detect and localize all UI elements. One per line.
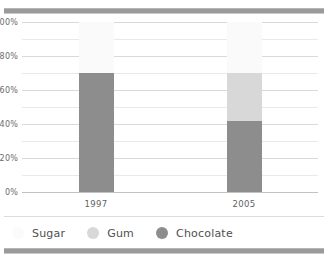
gridline <box>22 158 318 159</box>
gridline <box>22 22 318 23</box>
bottom-divider-band <box>4 248 324 254</box>
legend-label: Sugar <box>32 227 65 240</box>
gridline <box>22 73 318 74</box>
bar-segment-sugar <box>227 22 262 73</box>
y-axis-tick-label: 0% <box>5 188 18 197</box>
x-axis-category-label: 2005 <box>232 199 255 209</box>
y-axis-tick-label: 100% <box>0 18 18 27</box>
gridline <box>22 107 318 108</box>
x-axis-category-label: 1997 <box>84 199 107 209</box>
gridline <box>22 124 318 125</box>
y-axis-tick-label: 40% <box>0 120 18 129</box>
gridline <box>22 175 318 176</box>
legend-label: Chocolate <box>176 227 233 240</box>
legend-swatch-circle-icon <box>87 227 99 239</box>
y-axis-tick-label: 80% <box>0 52 18 61</box>
bar-segment-gum <box>227 73 262 121</box>
bar-segment-chocolate <box>79 73 114 192</box>
gridline <box>22 39 318 40</box>
bar-segment-chocolate <box>227 121 262 192</box>
gridline <box>22 56 318 57</box>
legend-item-chocolate[interactable]: Chocolate <box>156 227 233 240</box>
y-axis-tick-label: 20% <box>0 154 18 163</box>
stacked-bar-chart: 100%80%60%40%20%0%19972005 <box>0 14 328 214</box>
legend-item-sugar[interactable]: Sugar <box>12 227 65 240</box>
gridline <box>22 90 318 91</box>
plot-area: 100%80%60%40%20%0%19972005 <box>22 22 318 192</box>
bar-segment-sugar <box>79 22 114 73</box>
bar-1997: 1997 <box>79 22 114 192</box>
legend-swatch-circle-icon <box>12 227 24 239</box>
gridline <box>22 141 318 142</box>
y-axis-tick-label: 60% <box>0 86 18 95</box>
bar-2005: 2005 <box>227 22 262 192</box>
chart-legend: SugarGumChocolate <box>4 220 324 246</box>
legend-label: Gum <box>107 227 134 240</box>
gridline <box>22 192 318 193</box>
legend-swatch-circle-icon <box>156 227 168 239</box>
legend-item-gum[interactable]: Gum <box>87 227 134 240</box>
